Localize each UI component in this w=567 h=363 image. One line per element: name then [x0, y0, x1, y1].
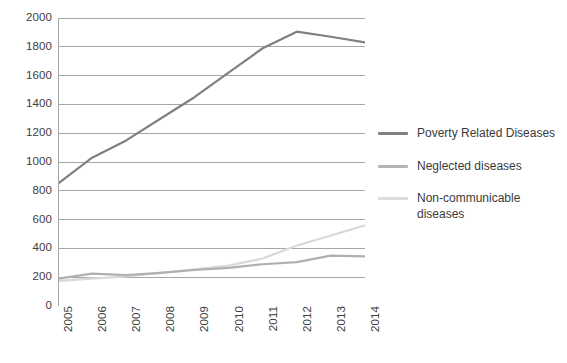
y-tick-label: 400	[0, 242, 52, 254]
y-tick-label: 2000	[0, 12, 52, 24]
legend-item[interactable]: Neglected diseases	[378, 159, 564, 175]
y-tick-label: 0	[0, 300, 52, 312]
y-tick-label: 1000	[0, 156, 52, 168]
y-tick-label: 800	[0, 185, 52, 197]
legend-item-label: Neglected diseases	[417, 159, 522, 175]
x-tick-label: 2013	[336, 306, 348, 332]
x-axis: 2005200620072008200920102011201220132014	[58, 306, 365, 361]
chart-legend: Poverty Related DiseasesNeglected diseas…	[378, 126, 564, 239]
x-tick-label: 2006	[97, 306, 109, 332]
x-tick-label: 2014	[370, 306, 382, 332]
legend-item-label: Poverty Related Diseases	[417, 126, 555, 142]
x-tick-label: 2007	[131, 306, 143, 332]
x-tick-label: 2011	[268, 306, 280, 331]
legend-item-label: Non-communicable diseases	[417, 191, 557, 222]
series-lines	[58, 32, 365, 281]
gridlines	[58, 18, 365, 306]
y-tick-label: 1400	[0, 98, 52, 110]
x-tick-label: 2005	[63, 306, 75, 332]
legend-color-swatch	[378, 165, 408, 168]
y-tick-label: 1200	[0, 127, 52, 139]
plot-svg	[58, 18, 365, 306]
y-tick-label: 1600	[0, 70, 52, 82]
series-line	[58, 225, 365, 280]
line-chart-figure: 2000180016001400120010008006004002000 20…	[0, 0, 567, 363]
y-tick-label: 200	[0, 271, 52, 283]
x-tick-label: 2008	[165, 306, 177, 332]
legend-item[interactable]: Poverty Related Diseases	[378, 126, 564, 142]
plot-area	[58, 18, 365, 306]
y-tick-label: 1800	[0, 41, 52, 53]
x-tick-label: 2009	[199, 306, 211, 332]
legend-color-swatch	[378, 197, 408, 200]
y-axis: 2000180016001400120010008006004002000	[0, 18, 52, 306]
x-tick-label: 2012	[302, 306, 314, 332]
y-tick-label: 600	[0, 214, 52, 226]
legend-color-swatch	[378, 132, 408, 135]
x-tick-label: 2010	[234, 306, 246, 332]
series-line	[58, 32, 365, 184]
legend-item[interactable]: Non-communicable diseases	[378, 191, 564, 222]
